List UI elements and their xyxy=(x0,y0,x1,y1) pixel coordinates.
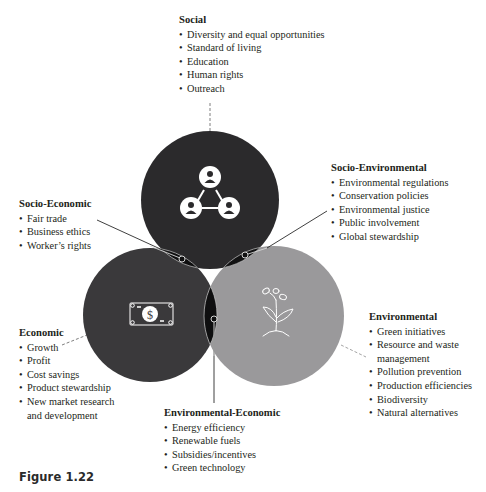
socio-environmental-block: Socio-Environmental Environmental regula… xyxy=(331,161,449,244)
list-item: Natural alternatives xyxy=(369,406,472,420)
list-item: Public involvement xyxy=(331,216,449,230)
socio-economic-block: Socio-Economic Fair trade Business ethic… xyxy=(19,197,91,252)
list-item: Business ethics xyxy=(19,225,91,239)
socio-economic-title: Socio-Economic xyxy=(19,197,91,211)
list-item: Subsidies/incentives xyxy=(164,448,280,462)
svg-text:$: $ xyxy=(147,308,153,322)
list-item: Fair trade xyxy=(19,212,91,226)
social-list: Diversity and equal opportunities Standa… xyxy=(179,28,325,96)
list-item: Global stewardship xyxy=(331,230,449,244)
list-item: Human rights xyxy=(179,68,325,82)
environmental-economic-title: Environmental-Economic xyxy=(164,406,280,420)
list-item: Biodiversity xyxy=(369,393,472,407)
list-item: Environmental regulations xyxy=(331,176,449,190)
list-item: Energy efficiency xyxy=(164,421,280,435)
sustainability-venn-diagram: $ Social Diversity and equal opportuniti… xyxy=(0,0,486,492)
list-item: Diversity and equal opportunities xyxy=(179,28,325,42)
environmental-title: Environmental xyxy=(369,310,472,324)
list-item: Outreach xyxy=(179,82,325,96)
list-item: Resource and waste xyxy=(369,338,472,352)
list-item: Pollution prevention xyxy=(369,365,472,379)
list-item: Renewable fuels xyxy=(164,434,280,448)
list-item: Education xyxy=(179,55,325,69)
economic-title: Economic xyxy=(19,326,114,340)
environmental-list: Green initiatives Resource and waste man… xyxy=(369,325,472,420)
list-item: New market research xyxy=(19,395,114,409)
list-item: Product stewardship xyxy=(19,381,114,395)
economic-list: Growth Profit Cost savings Product stewa… xyxy=(19,341,114,423)
figure-caption: Figure 1.22 xyxy=(19,470,94,484)
environmental-leader-line xyxy=(341,345,366,357)
list-item: Worker’s rights xyxy=(19,239,91,253)
list-item: Standard of living xyxy=(179,41,325,55)
list-item: Environmental justice xyxy=(331,203,449,217)
list-item: Growth xyxy=(19,341,114,355)
list-item: Green technology xyxy=(164,461,280,475)
social-title: Social xyxy=(179,13,325,27)
social-block: Social Diversity and equal opportunities… xyxy=(179,13,325,96)
environmental-block: Environmental Green initiatives Resource… xyxy=(369,310,472,420)
list-item-continuation: and development xyxy=(19,409,114,423)
list-item: Green initiatives xyxy=(369,325,472,339)
list-item: Conservation policies xyxy=(331,189,449,203)
socio-economic-list: Fair trade Business ethics Worker’s righ… xyxy=(19,212,91,253)
list-item-continuation: management xyxy=(369,352,472,366)
list-item: Cost savings xyxy=(19,368,114,382)
environmental-economic-block: Environmental-Economic Energy efficiency… xyxy=(164,406,280,475)
economic-block: Economic Growth Profit Cost savings Prod… xyxy=(19,326,114,422)
environmental-economic-list: Energy efficiency Renewable fuels Subsid… xyxy=(164,421,280,475)
socio-environmental-list: Environmental regulations Conservation p… xyxy=(331,176,449,244)
socio-environmental-title: Socio-Environmental xyxy=(331,161,449,175)
list-item: Production efficiencies xyxy=(369,379,472,393)
list-item: Profit xyxy=(19,354,114,368)
